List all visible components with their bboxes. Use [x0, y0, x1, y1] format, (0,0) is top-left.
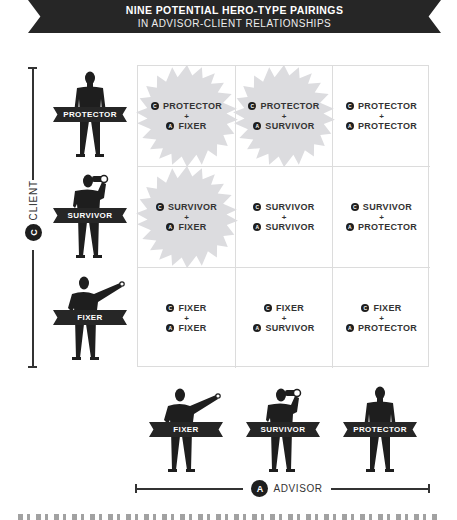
- advisor-badge-icon: A: [346, 223, 354, 231]
- client-badge-icon: C: [264, 304, 272, 312]
- pairing-cell-survivor-survivor: CSURVIVOR + ASURVIVOR: [236, 167, 333, 268]
- client-axis-label: CLIENT C: [20, 180, 46, 250]
- client-type: PROTECTOR: [358, 101, 417, 112]
- ribbon-label: FIXER: [77, 313, 103, 322]
- pairing-cell-survivor-fixer: CSURVIVOR + AFIXER: [138, 167, 236, 268]
- advisor-ribbon-protector: PROTECTOR: [343, 422, 417, 437]
- advisor-figure-fixer: FIXER: [146, 384, 226, 476]
- advisor-ribbon-survivor: SURVIVOR: [246, 422, 320, 437]
- cropped-caption-text: [18, 514, 438, 520]
- advisor-ribbon-fixer: FIXER: [149, 422, 223, 437]
- pairing-cell-protector-protector: CPROTECTOR + APROTECTOR: [333, 66, 430, 167]
- advisor-type: FIXER: [178, 121, 206, 132]
- client-type: SURVIVOR: [168, 202, 217, 213]
- pairing-cell-protector-survivor: CPROTECTOR + ASURVIVOR: [236, 66, 333, 167]
- client-badge-icon: C: [151, 102, 159, 110]
- plus-sign: +: [184, 314, 189, 323]
- pairing-label: CSURVIVOR + ASURVIVOR: [253, 202, 314, 233]
- pairing-grid: CPROTECTOR + AFIXER CPROTECTOR + ASURVIV…: [137, 65, 429, 367]
- pairing-label: CPROTECTOR + APROTECTOR: [346, 101, 417, 132]
- client-ribbon-fixer: FIXER: [53, 310, 127, 325]
- ribbon-label: PROTECTOR: [353, 425, 407, 434]
- plus-sign: +: [282, 112, 287, 121]
- client-badge-icon: C: [248, 102, 256, 110]
- advisor-type: PROTECTOR: [358, 121, 417, 132]
- advisor-type: SURVIVOR: [265, 323, 314, 334]
- client-ribbon-protector: PROTECTOR: [53, 107, 127, 122]
- plus-sign: +: [184, 112, 189, 121]
- advisor-badge-icon: A: [346, 324, 354, 332]
- pairing-label: CSURVIVOR + AFIXER: [156, 202, 217, 233]
- client-type: PROTECTOR: [163, 101, 222, 112]
- ribbon-label: FIXER: [173, 425, 199, 434]
- advisor-axis-text: ADVISOR: [273, 483, 322, 494]
- client-badge-icon: C: [166, 304, 174, 312]
- advisor-type: FIXER: [178, 222, 206, 233]
- client-type: FIXER: [178, 303, 206, 314]
- advisor-type: PROTECTOR: [358, 323, 417, 334]
- pairing-cell-fixer-fixer: CFIXER + AFIXER: [138, 268, 236, 368]
- plus-sign: +: [379, 213, 384, 222]
- plus-sign: +: [379, 314, 384, 323]
- advisor-badge-icon: A: [166, 324, 174, 332]
- client-type: FIXER: [373, 303, 401, 314]
- client-badge-icon: C: [361, 304, 369, 312]
- plus-sign: +: [282, 314, 287, 323]
- advisor-type: FIXER: [178, 323, 206, 334]
- pairing-cell-survivor-protector: CSURVIVOR + APROTECTOR: [333, 167, 430, 268]
- advisor-figure-survivor: SURVIVOR: [243, 384, 323, 476]
- advisor-axis-left-cap: [135, 484, 137, 493]
- client-figure-survivor: SURVIVOR: [50, 170, 130, 262]
- advisor-axis-right-cap: [428, 484, 430, 493]
- plus-sign: +: [282, 213, 287, 222]
- pairing-label: CPROTECTOR + ASURVIVOR: [248, 101, 319, 132]
- client-type: SURVIVOR: [265, 202, 314, 213]
- header-banner: NINE POTENTIAL HERO-TYPE PAIRINGS IN ADV…: [28, 0, 441, 33]
- advisor-badge-icon: A: [253, 223, 261, 231]
- client-axis-top-cap: [28, 67, 37, 69]
- plus-sign: +: [184, 213, 189, 222]
- client-badge-icon: C: [253, 203, 261, 211]
- client-type: SURVIVOR: [363, 202, 412, 213]
- client-ribbon-survivor: SURVIVOR: [53, 208, 127, 223]
- ribbon-label: PROTECTOR: [63, 110, 117, 119]
- advisor-badge-icon: A: [166, 122, 174, 130]
- client-badge-icon: C: [25, 224, 42, 241]
- pairing-label: CSURVIVOR + APROTECTOR: [346, 202, 417, 233]
- advisor-badge-icon: A: [166, 223, 174, 231]
- pairing-cell-fixer-survivor: CFIXER + ASURVIVOR: [236, 268, 333, 368]
- advisor-axis-label: A ADVISOR: [243, 479, 331, 498]
- advisor-type: SURVIVOR: [265, 222, 314, 233]
- diagram-subtitle: IN ADVISOR-CLIENT RELATIONSHIPS: [28, 18, 441, 29]
- client-axis-bottom-cap: [28, 366, 37, 368]
- advisor-badge-icon: A: [346, 122, 354, 130]
- pairing-label: CPROTECTOR + AFIXER: [151, 101, 222, 132]
- client-figure-fixer: FIXER: [50, 272, 130, 364]
- pairing-cell-protector-fixer: CPROTECTOR + AFIXER: [138, 66, 236, 167]
- diagram-title: NINE POTENTIAL HERO-TYPE PAIRINGS: [28, 0, 441, 16]
- ribbon-label: SURVIVOR: [68, 211, 113, 220]
- plus-sign: +: [379, 112, 384, 121]
- ribbon-label: SURVIVOR: [261, 425, 306, 434]
- pairing-label: CFIXER + AFIXER: [166, 303, 206, 334]
- client-type: FIXER: [276, 303, 304, 314]
- client-type: PROTECTOR: [260, 101, 319, 112]
- client-badge-icon: C: [156, 203, 164, 211]
- advisor-badge-icon: A: [251, 480, 268, 497]
- advisor-badge-icon: A: [253, 324, 261, 332]
- pairing-label: CFIXER + APROTECTOR: [346, 303, 417, 334]
- pairing-label: CFIXER + ASURVIVOR: [253, 303, 314, 334]
- advisor-badge-icon: A: [253, 122, 261, 130]
- advisor-type: PROTECTOR: [358, 222, 417, 233]
- client-badge-icon: C: [346, 102, 354, 110]
- advisor-type: SURVIVOR: [265, 121, 314, 132]
- client-figure-protector: PROTECTOR: [50, 69, 130, 161]
- client-badge-icon: C: [351, 203, 359, 211]
- pairing-cell-fixer-protector: CFIXER + APROTECTOR: [333, 268, 430, 368]
- client-axis-text: CLIENT: [28, 180, 39, 220]
- advisor-figure-protector: PROTECTOR: [340, 384, 420, 476]
